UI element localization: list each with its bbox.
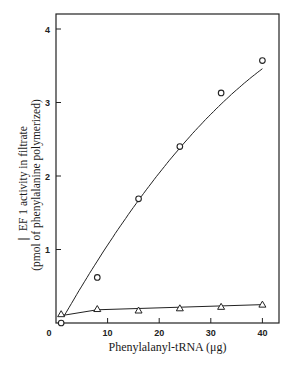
triangle-marker: [94, 306, 101, 312]
triangle-marker: [176, 305, 183, 311]
plot-frame: [56, 14, 279, 323]
svg-text:30: 30: [206, 328, 216, 338]
svg-text:40: 40: [257, 328, 267, 338]
circle-marker: [260, 58, 266, 64]
data-points: [58, 58, 266, 326]
y-axis-label-line2: (pmol of phenylalanine polymerized): [30, 99, 43, 270]
triangle-marker: [58, 311, 65, 317]
circle-marker: [218, 90, 224, 96]
circle-marker: [94, 275, 100, 281]
circle-marker: [136, 196, 142, 202]
circle-marker: [177, 144, 183, 150]
x-axis-label: Phenylalanyl-tRNA (μg): [56, 340, 279, 355]
circle-marker: [58, 320, 64, 326]
svg-text:10: 10: [103, 328, 113, 338]
triangle-marker: [259, 301, 266, 307]
figure-caption-cutoff: [0, 360, 296, 365]
fit-curves: [61, 69, 262, 317]
svg-text:20: 20: [154, 328, 164, 338]
y-axis-label-line1: ❘ EF 1 activity in filtrate: [17, 99, 30, 270]
y-axis-label: ❘ EF 1 activity in filtrate (pmol of phe…: [2, 0, 58, 340]
triangle-marker: [135, 307, 142, 313]
